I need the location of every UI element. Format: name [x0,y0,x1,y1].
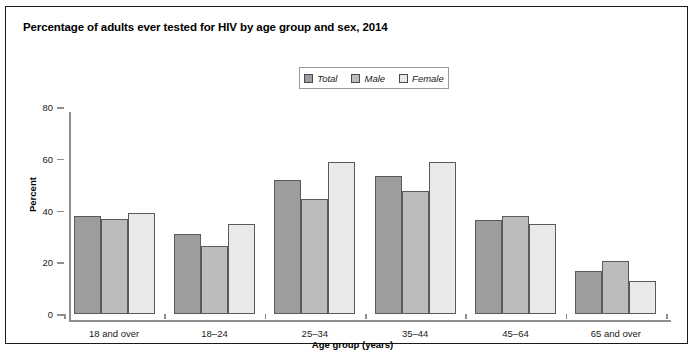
bar-male [502,216,529,314]
legend-label-total: Total [317,73,337,84]
y-tick-label: 0 [29,309,53,320]
x-tick-label: 25–34 [302,328,328,339]
bar-group [164,107,264,314]
x-tick [365,314,367,319]
bar-group [566,107,666,314]
bar-male [602,261,629,314]
y-tick [57,107,64,109]
x-tick [164,314,166,319]
y-tick-label: 80 [29,102,53,113]
x-tick [666,314,668,319]
bar-female [529,224,556,314]
y-tick-label: 40 [29,205,53,216]
y-tick [57,314,64,316]
bar-total [375,176,402,314]
x-tick-label: 18–24 [201,328,227,339]
bar-female [228,224,255,314]
bar-female [328,162,355,314]
bar-male [101,219,128,314]
x-tick [465,314,467,319]
bar-male [301,199,328,314]
bar-male [402,191,429,314]
legend-swatch-female-icon [399,74,408,83]
x-tick-label: 18 and over [89,328,139,339]
bar-group [365,107,465,314]
bar-group [265,107,365,314]
bar-total [575,271,602,314]
legend-item-total: Total [304,73,337,84]
x-axis-line [69,320,671,322]
bar-group [465,107,565,314]
bar-total [475,220,502,314]
legend-item-male: Male [351,73,385,84]
legend-swatch-total-icon [304,74,313,83]
x-tick-label: 45–64 [502,328,528,339]
y-tick [57,159,64,161]
bar-male [201,246,228,314]
legend-item-female: Female [399,73,444,84]
y-tick [57,262,64,264]
x-tick-label: 35–44 [402,328,428,339]
legend-label-female: Female [412,73,444,84]
x-tick [566,314,568,319]
bar-female [128,213,155,314]
bar-female [629,281,656,314]
y-tick [57,211,64,213]
legend-swatch-male-icon [351,74,360,83]
y-tick-label: 20 [29,257,53,268]
bar-total [74,216,101,314]
bar-total [174,234,201,314]
bar-female [429,162,456,314]
legend-label-male: Male [364,73,385,84]
x-axis-title: Age group (years) [6,339,693,350]
x-tick [265,314,267,319]
x-tick [64,314,66,319]
x-tick-label: 65 and over [591,328,641,339]
y-tick-label: 60 [29,153,53,164]
bar-total [274,180,301,314]
chart-title: Percentage of adults ever tested for HIV… [23,21,388,33]
chart-frame: Percentage of adults ever tested for HIV… [5,6,688,344]
chart-legend: Total Male Female [299,67,449,89]
bar-group [64,107,164,314]
